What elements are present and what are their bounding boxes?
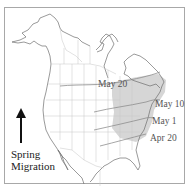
isoline-label-may-10: May 10 (155, 100, 184, 110)
mexico-border (60, 148, 104, 168)
isoline-label-apr-20: Apr 20 (150, 134, 177, 144)
legend-title-line1: Spring (11, 149, 40, 161)
isoline-label-may-1: May 1 (152, 117, 177, 127)
isoline-label-may-20: May 20 (98, 80, 127, 90)
arrow-up-shaft (20, 117, 22, 143)
gulf-coastline (90, 180, 92, 182)
west-coastline (43, 64, 78, 174)
alaska-coastline (12, 14, 90, 46)
mexico-coastline (78, 174, 84, 184)
alaska-south-coast (12, 41, 51, 64)
hudson-bay-coastline (97, 34, 114, 78)
baja-coastline (58, 150, 68, 170)
legend-title-line2: Migration (11, 161, 55, 173)
arctic-islands (96, 34, 118, 50)
canada-border-1 (66, 50, 82, 62)
